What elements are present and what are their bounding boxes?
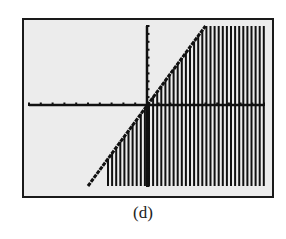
axes <box>29 26 264 186</box>
figure-caption: (d) <box>0 203 286 223</box>
